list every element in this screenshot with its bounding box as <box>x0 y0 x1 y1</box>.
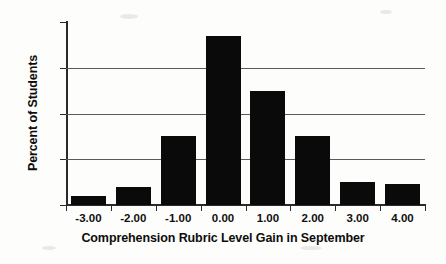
x-tick-mark-7 <box>425 205 426 211</box>
bar-2.00 <box>295 136 330 205</box>
x-tick-mark-5 <box>335 205 336 211</box>
scan-speckle <box>42 246 56 250</box>
bar-4.00 <box>385 184 420 205</box>
scan-speckle <box>120 14 138 19</box>
scan-speckle <box>300 246 322 250</box>
bar--2.00 <box>116 187 151 205</box>
bar-0.00 <box>206 36 241 205</box>
x-tick-mark-6 <box>380 205 381 211</box>
bar--1.00 <box>161 136 196 205</box>
x-tick-mark-4 <box>290 205 291 211</box>
scan-speckle <box>380 10 392 14</box>
bar-3.00 <box>340 182 375 205</box>
x-tick-mark-0 <box>111 205 112 211</box>
x-tick-mark-1 <box>156 205 157 211</box>
y-axis-title: Percent of Students <box>22 18 44 208</box>
gridline-20 <box>66 114 425 115</box>
x-axis-title: Comprehension Rubric Level Gain in Septe… <box>0 231 446 245</box>
plot-area <box>66 22 425 205</box>
gridline-30 <box>66 68 425 69</box>
x-tick-mark-2 <box>201 205 202 211</box>
bar-1.00 <box>250 91 285 205</box>
x-tick-label-4.00: 4.00 <box>373 212 433 224</box>
bar--3.00 <box>71 196 106 205</box>
gridline-10 <box>66 159 425 160</box>
bar-chart: Percent of Students 0 10 20 30 40 -3.00-… <box>0 0 446 264</box>
x-tick-mark-origin <box>66 205 67 211</box>
x-tick-mark-3 <box>246 205 247 211</box>
